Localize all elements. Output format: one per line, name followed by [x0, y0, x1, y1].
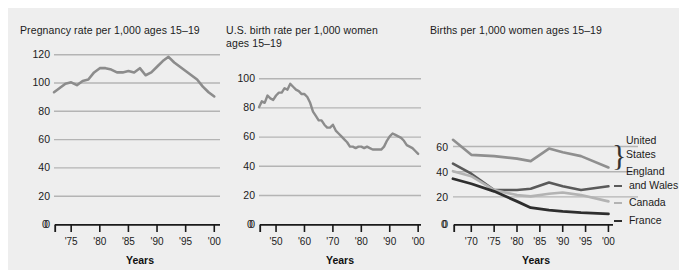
- y-tick-label: 20: [243, 189, 255, 201]
- legend-item-england-line1[interactable]: England: [626, 165, 665, 179]
- data-line-birthrate: [259, 84, 418, 154]
- legend-item-france[interactable]: France: [614, 214, 662, 228]
- x-axis-birthrate: [259, 224, 425, 234]
- gridlines: [453, 147, 638, 197]
- x-tick-label: '90: [556, 236, 569, 247]
- x-tick-label: '60: [298, 236, 311, 247]
- y-tick-label: 80: [243, 101, 255, 113]
- x-tick-label: '75: [488, 236, 501, 247]
- x-axis-labels-pregnancy: '75'80'85'90'95'00: [54, 236, 224, 250]
- y-tick-label-zero: 0: [42, 218, 48, 230]
- legend-label-england-line2: and Wales: [629, 179, 678, 191]
- x-axis-caption-pregnancy: Years: [126, 254, 154, 266]
- legend-swatch-canada: [614, 202, 622, 204]
- x-tick-label: '70: [326, 236, 339, 247]
- chart-title-international: Births per 1,000 women ages 15–19: [430, 24, 602, 37]
- x-tick-label: '90: [383, 236, 396, 247]
- chart-international-births: Births per 1,000 women ages 15–19 60 40 …: [426, 8, 679, 270]
- data-line-pregnancy: [54, 57, 214, 97]
- y-tick-label: 80: [38, 105, 50, 117]
- x-tick-label: '80: [355, 236, 368, 247]
- x-tick-label: '80: [510, 236, 523, 247]
- y-tick-label: 40: [436, 166, 448, 178]
- y-tick-label: 120: [32, 48, 50, 60]
- legend-label-us-line1: United: [626, 134, 656, 146]
- chart-us-birth-rate: U.S. birth rate per 1,000 women ages 15–…: [226, 8, 426, 270]
- legend-swatch-france: [614, 220, 622, 222]
- x-axis-caption-international: Years: [522, 254, 550, 266]
- legend-swatch-england-and-wales: [614, 185, 622, 187]
- x-tick-label: '50: [270, 236, 283, 247]
- x-tick-label: '00: [602, 236, 615, 247]
- x-tick-label: '95: [179, 236, 192, 247]
- x-tick-label: '00: [412, 236, 425, 247]
- chart-title-pregnancy: Pregnancy rate per 1,000 ages 15–19: [20, 24, 200, 37]
- x-tick-label: '85: [533, 236, 546, 247]
- y-tick-label: 40: [38, 161, 50, 173]
- x-tick-label: '00: [208, 236, 221, 247]
- y-tick-label: 20: [436, 191, 448, 203]
- plot-area-birthrate: [259, 78, 421, 224]
- x-tick-label: '75: [65, 236, 78, 247]
- y-tick-label: 60: [436, 141, 448, 153]
- y-axis-labels-birthrate: 100 80 60 40 20 0: [225, 78, 255, 224]
- y-axis-labels-international: 60 40 20 0: [418, 136, 448, 224]
- y-tick-label: 100: [237, 72, 255, 84]
- legend-item-england-and-wales[interactable]: and Wales: [614, 179, 678, 193]
- legend-label-canada: Canada: [629, 196, 666, 208]
- legend-item-united-states[interactable]: United: [626, 134, 656, 148]
- y-axis-labels-pregnancy: 120 100 80 60 40 20 0: [20, 54, 50, 224]
- figure-panel: Pregnancy rate per 1,000 ages 15–19 120 …: [8, 8, 679, 270]
- legend-label-us-line2: States: [626, 148, 656, 160]
- x-tick-label: '90: [151, 236, 164, 247]
- legend-label-england-line1: England: [626, 165, 665, 177]
- plot-area-international: [453, 136, 613, 224]
- x-tick-label: '70: [465, 236, 478, 247]
- y-tick-label: 60: [243, 130, 255, 142]
- x-axis-labels-birthrate: '50'60'70'80'90'00: [259, 236, 425, 250]
- y-tick-label: 60: [38, 133, 50, 145]
- x-axis-international: [453, 224, 619, 234]
- plot-area-pregnancy: [54, 54, 220, 224]
- data-line-united-states: [453, 140, 608, 168]
- gridlines: [54, 55, 220, 197]
- legend-brace-icon: }: [612, 140, 626, 170]
- legend-item-united-states-line2[interactable]: States: [626, 148, 656, 162]
- chart-title-birthrate: U.S. birth rate per 1,000 women ages 15–…: [226, 24, 378, 50]
- gridlines: [259, 79, 421, 196]
- chart-pregnancy-rate: Pregnancy rate per 1,000 ages 15–19 120 …: [20, 8, 228, 270]
- x-tick-label: '85: [122, 236, 135, 247]
- x-tick-label: '95: [579, 236, 592, 247]
- x-axis-labels-international: '70'75'80'85'90'95'00: [453, 236, 619, 250]
- x-axis-caption-birthrate: Years: [326, 254, 354, 266]
- y-tick-label: 100: [32, 76, 50, 88]
- x-axis-pregnancy: [54, 224, 224, 234]
- legend-international: } United States England and Wales Canada…: [612, 134, 682, 230]
- y-tick-label-zero: 0: [441, 218, 447, 230]
- y-tick-label: 40: [243, 160, 255, 172]
- legend-item-canada[interactable]: Canada: [614, 196, 666, 210]
- y-tick-label: 20: [38, 190, 50, 202]
- y-tick-label-zero: 0: [247, 218, 253, 230]
- x-tick-label: '80: [93, 236, 106, 247]
- legend-label-france: France: [629, 214, 662, 226]
